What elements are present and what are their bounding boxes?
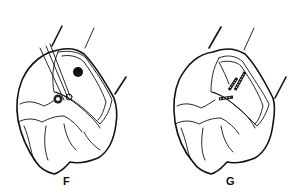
pin-horizontal <box>219 97 233 99</box>
groove-2 <box>45 126 48 160</box>
cusp-ridge <box>175 118 239 134</box>
root-line-middle <box>244 28 254 50</box>
groove-3 <box>64 124 76 150</box>
groove-1 <box>181 128 191 160</box>
cusp-ridge-left <box>20 98 58 106</box>
pin-hole-dark <box>73 67 83 77</box>
groove-2 <box>202 128 205 160</box>
tooth-with-instrument-illustration <box>0 0 150 194</box>
tooth-with-pins-illustration <box>149 0 299 194</box>
instrument-shaft-1 <box>40 48 64 100</box>
pin-hole-center <box>56 97 60 101</box>
panel-f: F <box>0 0 150 194</box>
groove-3 <box>221 126 233 152</box>
groove-4 <box>84 132 100 150</box>
panel-label-f: F <box>63 175 70 187</box>
crown-outline <box>17 49 117 174</box>
panel-label-g: G <box>226 175 235 187</box>
root-line-left <box>209 27 221 48</box>
root-line-right <box>275 77 286 98</box>
root-line-left <box>52 26 62 46</box>
cavity-inner-wall <box>221 61 263 124</box>
root-line-right <box>115 77 126 94</box>
cavity-outline <box>53 51 112 124</box>
root-line-middle <box>85 28 94 48</box>
cavity-side-line <box>219 62 229 84</box>
panel-g: G <box>149 0 299 194</box>
cusp-ridge <box>18 116 82 132</box>
cavity-floor-line <box>213 92 255 128</box>
cusp-ridge-left <box>177 100 215 108</box>
